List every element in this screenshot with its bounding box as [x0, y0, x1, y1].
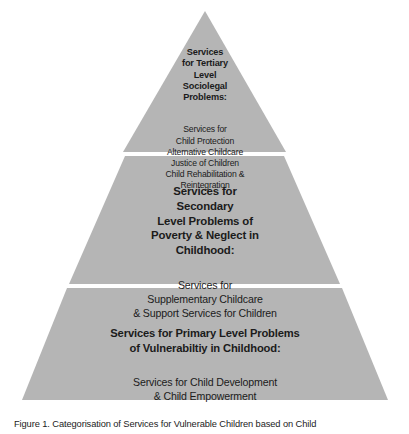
tier-primary-heading: Services for Primary Level Problems of V… [48, 326, 362, 356]
services-pyramid-figure: Services for Tertiary Level Sociolegal P… [0, 0, 409, 434]
figure-caption: Figure 1. Categorisation of Services for… [14, 418, 398, 431]
tier-secondary-heading: Services for Secondary Level Problems of… [94, 184, 316, 258]
tier-primary-text: Services for Primary Level Problems of V… [48, 308, 362, 421]
tier-tertiary-heading: Services for Tertiary Level Sociolegal P… [134, 47, 276, 104]
tier-primary-body: Services for Child Development & Child E… [48, 375, 362, 403]
